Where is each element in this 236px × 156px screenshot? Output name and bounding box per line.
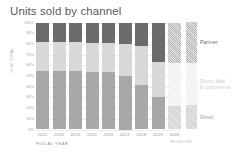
legend-swatch-retail (186, 105, 197, 129)
bar-2019 (152, 23, 165, 130)
gridline (36, 130, 181, 131)
y-axis-tick-label: 10% (26, 117, 34, 121)
y-axis-tick-label: 30% (26, 95, 34, 99)
y-axis-title: % OF TOTAL (10, 36, 14, 84)
bar-segment-direct-mail-ecommerce (69, 42, 82, 71)
bar-segment-direct-mail-ecommerce (53, 42, 66, 71)
bar-segment-direct-mail-ecommerce (36, 42, 49, 71)
x-axis-tick-label-2020: 2020 (164, 132, 186, 137)
bar-segment-partner (119, 23, 132, 44)
y-axis-tick-label: 40% (26, 85, 34, 89)
projected-note: PROJECTED (168, 140, 194, 144)
bar-2013 (53, 23, 66, 130)
y-axis-tick-label: 20% (26, 106, 34, 110)
x-axis-title: FISCAL YEAR (36, 141, 69, 146)
bar-segment-retail (53, 71, 66, 130)
bar-segment-retail (69, 71, 82, 130)
legend-label-partner: Partner (200, 39, 218, 45)
legend-swatch-direct-mail-e-commerce (186, 63, 197, 106)
y-axis-tick-label: 80% (26, 42, 34, 46)
bar-segment-direct-mail-ecommerce (102, 43, 115, 72)
chart-container: Units sold by channel % OF TOTAL 0%10%20… (0, 0, 236, 156)
bar-segment-direct-mail-ecommerce (86, 43, 99, 72)
bar-2014 (69, 23, 82, 130)
bar-segment-direct-mail-ecommerce (168, 63, 181, 106)
legend-label-direct-mail-ecommerce: Direct Mail E-commerce (200, 78, 230, 90)
bar-segment-retail (152, 97, 165, 129)
bar-segment-direct-mail-ecommerce (152, 62, 165, 97)
bar-segment-partner (168, 23, 181, 64)
bar-segment-retail (135, 85, 148, 130)
bar-2020 (168, 23, 181, 130)
bar-segment-partner (53, 23, 66, 42)
chart-title: Units sold by channel (10, 5, 121, 17)
bar-segment-partner (36, 23, 49, 42)
y-axis-tick-label: 60% (26, 63, 34, 67)
bar-2012 (36, 23, 49, 130)
bar-segment-partner (135, 23, 148, 47)
bar-segment-retail (102, 72, 115, 130)
plot-area: 0%10%20%30%40%50%60%70%80%90%100% (36, 23, 181, 130)
bar-segment-partner (102, 23, 115, 43)
bar-segment-retail (36, 71, 49, 130)
bar-segment-direct-mail-ecommerce (135, 46, 148, 85)
bar-segment-partner (152, 23, 165, 63)
bar-segment-retail (119, 76, 132, 130)
y-axis-tick-label: 100% (24, 21, 34, 25)
bar-2015 (86, 23, 99, 130)
bar-segment-partner (86, 23, 99, 43)
y-axis-tick-label: 70% (26, 53, 34, 57)
bar-segment-partner (69, 23, 82, 42)
bar-2016 (102, 23, 115, 130)
y-axis-tick-label: 90% (26, 31, 34, 35)
bar-2018 (135, 23, 148, 130)
y-axis-tick-label: 50% (26, 74, 34, 78)
bar-2017 (119, 23, 132, 130)
bar-segment-retail (86, 72, 99, 130)
chart-legend: Partner Direct Mail E-commerce Retail (186, 22, 236, 130)
legend-label-direct-line2: E-commerce (200, 84, 230, 90)
legend-swatch-partner (186, 22, 197, 63)
bar-segment-retail (168, 106, 181, 130)
legend-swatch-bar (186, 22, 197, 129)
bar-segment-direct-mail-ecommerce (119, 44, 132, 76)
y-axis-tick-label: 0% (28, 128, 34, 132)
legend-label-retail: Retail (200, 114, 214, 120)
